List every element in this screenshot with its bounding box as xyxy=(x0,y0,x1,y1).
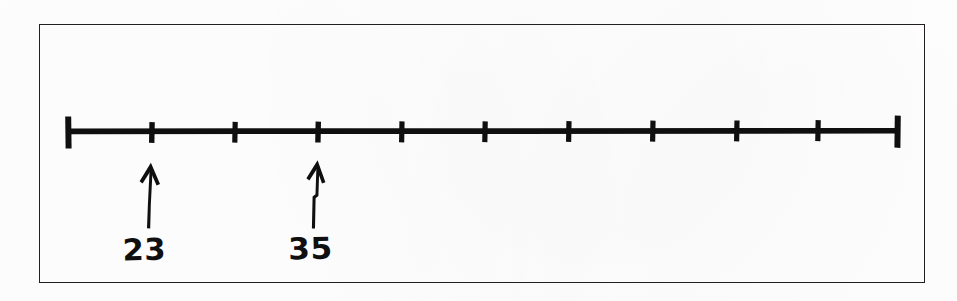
tick-mark xyxy=(815,120,821,141)
arrow-shaft xyxy=(147,170,153,229)
tick-mark xyxy=(566,121,572,142)
endcap-right xyxy=(894,116,900,149)
value-label-35: 35 xyxy=(288,230,333,266)
tick-mark xyxy=(650,121,656,142)
scanned-page: 23 35 xyxy=(0,0,957,301)
tick-mark xyxy=(315,122,321,143)
annotation-arrow-23 xyxy=(140,163,160,229)
value-label-23: 23 xyxy=(122,232,166,268)
tick-mark xyxy=(734,120,740,141)
tick-mark xyxy=(482,121,488,142)
arrow-shaft xyxy=(312,168,319,229)
arrow-head xyxy=(306,160,325,183)
endcap-left xyxy=(65,117,71,149)
tick-mark xyxy=(232,122,238,143)
annotation-arrow-35 xyxy=(306,160,325,228)
tick-mark xyxy=(149,122,155,143)
tick-mark xyxy=(399,121,405,142)
